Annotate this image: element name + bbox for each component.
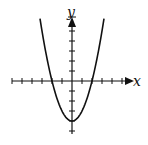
x-axis-label: x bbox=[133, 73, 141, 89]
y-axis-label: y bbox=[66, 4, 76, 20]
x-axis bbox=[12, 77, 134, 85]
parabola-chart: y x bbox=[0, 0, 148, 145]
y-axis bbox=[68, 17, 76, 134]
